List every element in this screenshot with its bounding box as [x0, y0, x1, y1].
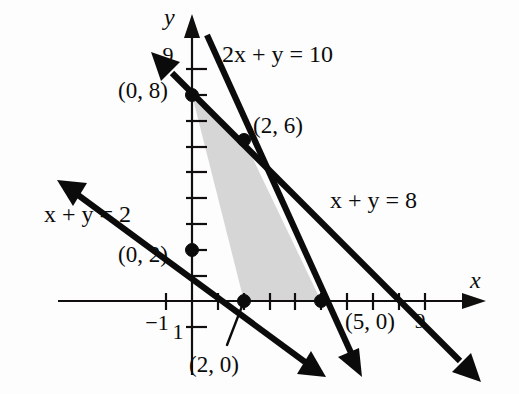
vertex-dot-2-6: [238, 134, 251, 147]
vertex-dot-5-0: [315, 295, 328, 308]
vertex-dot-0-2: [186, 244, 199, 257]
y-axis-arrow-icon: [184, 14, 200, 38]
point-label-5-0: (5, 0): [345, 309, 395, 334]
x-axis-label: x: [469, 267, 481, 293]
line-x-plus-y-8: [151, 52, 481, 382]
equation-label-x-plus-y-2: x + y = 2: [44, 201, 131, 227]
x-axis-arrow-icon: [462, 293, 486, 309]
point-label-0-8: (0, 8): [118, 78, 168, 103]
y-axis-label: y: [162, 4, 175, 30]
vertex-dot-0-8: [186, 89, 199, 102]
x-tick-label-9: 9: [415, 308, 426, 333]
equation-label-x-plus-y-8: x + y = 8: [330, 187, 417, 213]
point-label-2-0: (2, 0): [189, 352, 239, 377]
arrow-head-icon: [297, 351, 326, 377]
y-tick-label-9: 9: [163, 42, 174, 67]
point-label-0-2: (0, 2): [118, 242, 168, 267]
graph-canvas: x y 9 −1 1 9 (0, 8) (2, 6) (0, 2) (2, 0)…: [0, 0, 519, 394]
equation-label-2x-plus-y-10: 2x + y = 10: [222, 41, 333, 67]
arrow-head-icon: [338, 348, 362, 377]
linear-programming-figure: x y 9 −1 1 9 (0, 8) (2, 6) (0, 2) (2, 0)…: [0, 0, 519, 394]
x-tick-label-1: 1: [173, 319, 184, 344]
point-label-2-6: (2, 6): [253, 113, 303, 138]
x-tick-label-neg1: −1: [145, 310, 168, 335]
